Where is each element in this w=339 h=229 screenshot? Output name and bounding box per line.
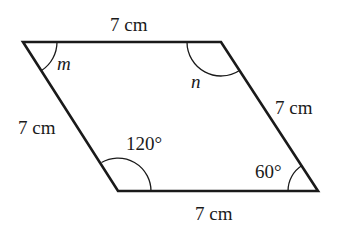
parallelogram-diagram: 7 cm 7 cm 7 cm 7 cm m n 120° 60° [0,0,339,229]
angle-label-120: 120° [126,133,162,154]
side-label-top: 7 cm [110,14,148,35]
angle-label-n: n [191,71,201,92]
angle-arc-m [42,42,58,71]
angle-arc-60 [288,166,302,192]
side-label-left: 7 cm [18,117,56,138]
angle-label-60: 60° [255,161,282,182]
side-label-bottom: 7 cm [195,203,233,224]
angle-label-m: m [57,53,71,74]
side-label-right: 7 cm [275,97,313,118]
